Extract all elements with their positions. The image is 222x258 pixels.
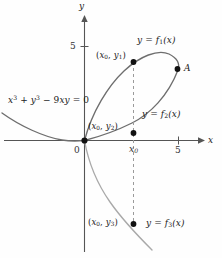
x-tick-label-x0: x0 — [129, 145, 138, 154]
y-axis-arrowhead — [81, 15, 87, 22]
x-tick-label-5: 5 — [175, 146, 181, 155]
f3-suffix: (x) — [172, 218, 184, 228]
point-a — [175, 66, 181, 72]
point-x0-y1 — [131, 59, 137, 65]
eq-equals: = 0 — [73, 95, 89, 105]
equation-label: x3 + y3 − 9xy = 0 — [8, 95, 89, 105]
p2-close: ) — [114, 121, 117, 131]
y-tick-label-5: 5 — [70, 42, 76, 51]
curve-asymptotic-tail — [2, 113, 85, 141]
folium-of-descartes-figure: y x 0 5 5 x0 x3 + y3 − 9xy = 0 y = f1(x)… — [0, 0, 222, 258]
f3-prefix: y = f — [146, 218, 168, 228]
origin-label: 0 — [74, 146, 80, 155]
f1-suffix: (x) — [163, 35, 175, 45]
p3-close: ) — [114, 217, 117, 227]
eq-plus: + — [20, 95, 28, 105]
eq-minus: − — [43, 95, 51, 105]
data-points-group — [81, 59, 180, 227]
branch-label-f3: y = f3(x) — [146, 219, 185, 228]
point-x0-y2 — [131, 130, 137, 136]
branch-label-f2: y = f2(x) — [142, 110, 181, 119]
y-axis-label: y — [79, 2, 84, 11]
p1-close: ) — [122, 50, 125, 60]
x-axis-label: x — [208, 136, 213, 145]
x0-sub: 0 — [134, 147, 138, 154]
point-label-a: A — [184, 64, 191, 73]
point-x0-y3 — [131, 221, 137, 227]
point-origin — [81, 137, 87, 143]
f2-suffix: (x) — [168, 109, 180, 119]
eq-exp1: 3 — [13, 94, 17, 101]
x-axis-arrowhead — [198, 137, 205, 143]
curve-f3 — [85, 141, 153, 251]
point-label-x0-y1: (x0, y1) — [96, 51, 126, 61]
f2-prefix: y = f — [142, 109, 164, 119]
point-label-x0-y2: (x0, y2) — [88, 122, 118, 132]
point-label-x0-y3: (x0, y3) — [88, 218, 118, 228]
eq-xy: xy — [59, 95, 69, 105]
branch-label-f1: y = f1(x) — [137, 36, 176, 45]
eq-exp2: 3 — [36, 94, 40, 101]
f1-prefix: y = f — [137, 35, 159, 45]
